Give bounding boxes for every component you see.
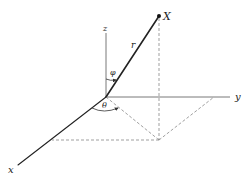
y-axis-label: y: [234, 91, 241, 102]
radius-label: r: [131, 40, 136, 50]
point-x-marker: [157, 14, 161, 18]
spherical-coordinates-diagram: z y x X r φ θ: [0, 0, 252, 181]
projection-to-y-line: [159, 97, 214, 140]
phi-angle-arc: [106, 79, 116, 80]
x-axis-label: x: [8, 164, 14, 175]
phi-label: φ: [110, 68, 116, 77]
z-axis-label: z: [102, 24, 108, 33]
radius-vector: [106, 16, 159, 97]
projection-to-origin-line: [106, 97, 159, 140]
theta-label: θ: [102, 101, 107, 110]
x-axis: [18, 97, 106, 165]
point-label: X: [162, 10, 172, 23]
